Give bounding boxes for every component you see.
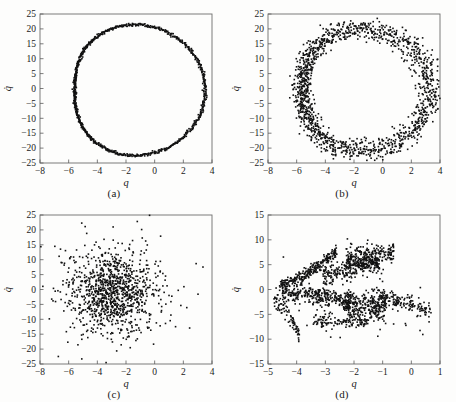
svg-text:−6: −6 [64,166,74,176]
svg-text:−6: −6 [64,367,74,377]
scatter-plot-a: −8−6−4−2024−25−20−15−10−50510152025qq̇ [0,0,228,201]
panel-caption-a: (a) [0,187,228,199]
svg-text:15: 15 [255,39,265,49]
svg-text:−2: −2 [349,367,359,377]
svg-text:−8: −8 [263,166,273,176]
svg-text:15: 15 [27,240,37,250]
svg-text:5: 5 [31,69,36,79]
svg-text:10: 10 [27,255,37,265]
svg-text:−5: −5 [263,367,273,377]
panel-caption-b: (b) [228,187,456,199]
svg-text:0: 0 [259,285,264,295]
data-points [289,18,441,162]
svg-text:−25: −25 [21,158,36,168]
svg-text:−5: −5 [254,310,264,320]
panel-b: −8−6−4−2024−25−20−15−10−50510152025qq̇ (… [228,0,456,201]
scatter-plot-d: −5−4−3−2−101−15−10−5051015qq̇ [228,201,456,402]
panel-a: −8−6−4−2024−25−20−15−10−50510152025qq̇ (… [0,0,228,201]
svg-text:25: 25 [27,210,37,220]
panel-caption-c: (c) [0,388,228,400]
data-points [40,215,204,364]
svg-text:−20: −20 [21,344,36,354]
svg-text:−25: −25 [249,158,264,168]
svg-text:4: 4 [210,367,215,377]
svg-text:−25: −25 [21,359,36,369]
svg-text:−5: −5 [26,99,36,109]
svg-text:−2: −2 [349,166,359,176]
svg-text:0: 0 [259,84,264,94]
scatter-plot-c: −8−6−4−2024−25−20−15−10−50510152025qq̇ [0,201,228,402]
svg-text:−5: −5 [26,300,36,310]
data-points [273,238,432,342]
svg-text:4: 4 [438,166,443,176]
panel-d: −5−4−3−2−101−15−10−5051015qq̇ (d) [228,201,456,402]
svg-text:−1: −1 [378,367,388,377]
svg-text:15: 15 [27,39,37,49]
svg-text:−8: −8 [35,367,45,377]
svg-text:5: 5 [31,270,36,280]
svg-text:−6: −6 [292,166,302,176]
svg-text:q̇: q̇ [230,86,241,91]
svg-text:15: 15 [255,210,265,220]
svg-text:10: 10 [255,54,265,64]
svg-text:10: 10 [27,54,37,64]
svg-text:−20: −20 [249,143,264,153]
svg-text:1: 1 [438,367,443,377]
svg-text:0: 0 [409,367,414,377]
svg-text:0: 0 [152,367,157,377]
svg-text:20: 20 [27,24,37,34]
svg-text:−10: −10 [249,334,264,344]
svg-text:−4: −4 [92,166,102,176]
svg-text:−10: −10 [21,114,36,124]
svg-text:2: 2 [181,166,186,176]
svg-text:−15: −15 [21,128,36,138]
svg-text:−2: −2 [121,166,131,176]
scatter-plot-b: −8−6−4−2024−25−20−15−10−50510152025qq̇ [228,0,456,201]
panel-caption-d: (d) [228,388,456,400]
svg-text:−4: −4 [292,367,302,377]
svg-text:−10: −10 [249,114,264,124]
svg-text:20: 20 [255,24,265,34]
svg-text:0: 0 [152,166,157,176]
svg-text:−3: −3 [320,367,330,377]
svg-text:0: 0 [380,166,385,176]
svg-text:2: 2 [409,166,414,176]
svg-text:−8: −8 [35,166,45,176]
svg-text:5: 5 [259,260,264,270]
svg-text:−15: −15 [249,128,264,138]
svg-text:0: 0 [31,84,36,94]
svg-text:−2: −2 [121,367,131,377]
svg-text:0: 0 [31,285,36,295]
svg-text:q̇: q̇ [2,86,13,91]
svg-text:5: 5 [259,69,264,79]
svg-text:4: 4 [210,166,215,176]
svg-text:−4: −4 [92,367,102,377]
svg-text:−4: −4 [320,166,330,176]
svg-text:−15: −15 [21,329,36,339]
panel-c: −8−6−4−2024−25−20−15−10−50510152025qq̇ (… [0,201,228,402]
figure-container: −8−6−4−2024−25−20−15−10−50510152025qq̇ (… [0,0,456,402]
data-points [71,23,207,158]
svg-text:q̇: q̇ [230,287,241,292]
svg-text:2: 2 [181,367,186,377]
svg-text:25: 25 [255,9,265,19]
svg-text:10: 10 [255,235,265,245]
svg-text:20: 20 [27,225,37,235]
svg-text:−5: −5 [254,99,264,109]
svg-text:q̇: q̇ [2,287,13,292]
svg-text:−20: −20 [21,143,36,153]
svg-text:−10: −10 [21,315,36,325]
svg-text:25: 25 [27,9,37,19]
svg-text:−15: −15 [249,359,264,369]
